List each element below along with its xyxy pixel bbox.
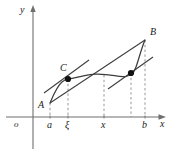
point-marker-C <box>65 76 71 82</box>
y-axis <box>30 5 35 149</box>
tick-label-xi: ξ <box>65 120 69 130</box>
point-marker-second <box>128 70 134 76</box>
y-axis-arrow-icon <box>30 5 35 12</box>
tick-label-x: x <box>101 120 105 130</box>
x-axis-label: x <box>160 119 164 129</box>
point-label-A: A <box>38 100 44 110</box>
math-figure-mean-value-theorem: y x o A B C a ξ x b <box>0 0 172 166</box>
y-axis-label: y <box>20 5 24 15</box>
origin-label: o <box>14 120 19 129</box>
tick-label-b: b <box>142 120 147 130</box>
point-label-B: B <box>150 27 156 37</box>
tick-label-a: a <box>47 120 52 130</box>
figure-canvas <box>0 0 172 166</box>
point-label-C: C <box>60 63 67 73</box>
